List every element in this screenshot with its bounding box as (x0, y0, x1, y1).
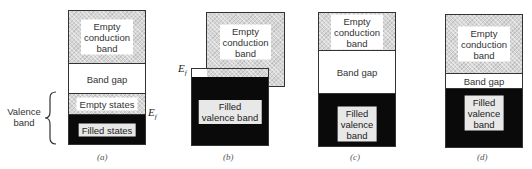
panel-c-valence-band: Filled valence band (318, 93, 396, 147)
panel-a-empty-states: Empty states (68, 93, 146, 115)
panel-d-band-gap: Band gap (445, 73, 523, 89)
panel-b-top-strip-white (192, 69, 207, 77)
curly-brace-icon (44, 90, 60, 146)
panel-a-band-gap: Band gap (68, 63, 146, 94)
panel-b-top-strip-overlap (207, 69, 268, 77)
panel-a-conduction-label: Empty conduction band (81, 20, 133, 55)
panel-a-filled-states-label: Filled states (79, 123, 136, 136)
panel-a-conduction-band: Empty conduction band (68, 10, 146, 64)
panel-c-valence-label: Filled valence band (338, 107, 377, 142)
panel-a-fermi-label: Ef (148, 106, 157, 121)
panel-a-filled-states: Filled states (68, 114, 146, 145)
valence-band-side-label: Valence band (4, 106, 44, 128)
panel-c-conduction-band: Empty conduction band (318, 12, 396, 51)
panel-a-empty-states-label: Empty states (77, 98, 138, 111)
panel-b-conduction-label: Empty conduction band (220, 25, 272, 60)
panel-d-conduction-band: Empty conduction band (445, 14, 523, 74)
panel-d: Empty conduction band Band gap Filled va… (445, 14, 523, 148)
panel-c-band-gap: Band gap (318, 50, 396, 94)
panel-d-caption: (d) (477, 152, 488, 162)
panel-c-caption: (c) (350, 152, 360, 162)
panel-a-gap-label: Band gap (84, 72, 131, 85)
panel-d-valence-band: Filled valence band (445, 88, 523, 148)
panel-b-valence-label: Filled valence band (199, 100, 262, 124)
panel-c-conduction-label: Empty conduction band (331, 14, 383, 49)
panel-c: Empty conduction band Band gap Filled va… (318, 12, 396, 147)
panel-b-valence-band: Filled valence band (191, 68, 269, 146)
panel-a-caption: (a) (97, 152, 108, 162)
panel-b-fermi-label: Ef (178, 62, 187, 77)
panel-d-valence-label: Filled valence band (465, 96, 504, 131)
panel-a: Empty conduction band Band gap Empty sta… (68, 10, 146, 145)
panel-d-gap-label: Band gap (461, 76, 508, 87)
panel-b-caption: (b) (223, 152, 234, 162)
panel-c-gap-label: Band gap (334, 66, 381, 79)
panel-d-conduction-label: Empty conduction band (458, 27, 510, 62)
